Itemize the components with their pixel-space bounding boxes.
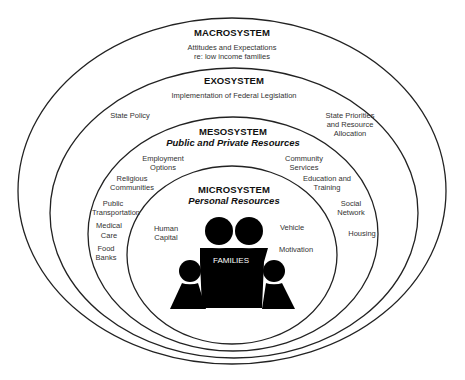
mesosystem-item: Communities [110, 183, 154, 192]
mesosystem-item: Religious [117, 174, 148, 183]
exosystem-item: Implementation of Federal Legislation [171, 91, 296, 100]
macrosystem-item: Attitudes and Expectations [188, 43, 277, 52]
macrosystem-item: re: low income families [194, 52, 270, 61]
exosystem-item: State Policy [110, 111, 150, 120]
mesosystem-item: Housing [348, 229, 376, 238]
microsystem-item: Vehicle [280, 223, 304, 232]
mesosystem-item: Care [101, 231, 117, 240]
microsystem-title: MICROSYSTEM [198, 184, 270, 196]
families-label: FAMILIES [213, 256, 249, 266]
exosystem-title: EXOSYSTEM [204, 75, 264, 87]
macrosystem-title: MACROSYSTEM [194, 27, 270, 39]
mesosystem-item: Options [150, 163, 176, 172]
mesosystem-item: Food [97, 244, 114, 253]
mesosystem-item: Services [290, 163, 319, 172]
mesosystem-item: Medical [96, 221, 122, 230]
microsystem-item: Capital [154, 233, 177, 242]
mesosystem-item: Social [341, 199, 361, 208]
mesosystem-item: Training [314, 183, 341, 192]
exosystem-item: and Resource [327, 120, 374, 129]
mesosystem-item: Network [337, 208, 365, 217]
microsystem-subtitle: Personal Resources [188, 195, 279, 207]
microsystem-item: Human [154, 224, 178, 233]
mesosystem-subtitle: Public and Private Resources [166, 137, 300, 149]
exosystem-item: Allocation [334, 129, 367, 138]
mesosystem-item: Banks [96, 253, 117, 262]
mesosystem-item: Employment [142, 154, 184, 163]
mesosystem-item: Transportation [92, 208, 140, 217]
mesosystem-item: Community [285, 154, 323, 163]
mesosystem-title: MESOSYSTEM [199, 126, 267, 138]
mesosystem-item: Education and [303, 174, 351, 183]
mesosystem-item: Public [103, 199, 123, 208]
microsystem-item: Motivation [279, 245, 313, 254]
exosystem-item: State Priorities [326, 111, 375, 120]
